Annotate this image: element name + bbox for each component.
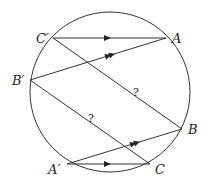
- segment-a-prime-b: [67, 129, 182, 164]
- circle: [30, 12, 190, 172]
- label-b: B: [187, 122, 198, 137]
- label-b-prime: B′: [11, 73, 25, 88]
- single-arrow-icon: [104, 161, 111, 167]
- segment-c-prime-b: [53, 38, 182, 129]
- label-a: A: [171, 31, 181, 46]
- label-a-prime: A′: [47, 162, 60, 177]
- question-mark-c-prime-b: ?: [133, 86, 139, 99]
- geometry-diagram: ? ? C′ A B′ B A′ C: [0, 0, 208, 185]
- double-arrow-icon: [129, 139, 140, 148]
- question-mark-b-prime-c: ?: [88, 112, 94, 125]
- segment-b-prime-a: [30, 38, 166, 80]
- label-c: C: [155, 162, 165, 177]
- label-c-prime: C′: [36, 31, 49, 46]
- single-arrow-icon: [104, 35, 111, 41]
- double-arrow-icon: [104, 51, 115, 60]
